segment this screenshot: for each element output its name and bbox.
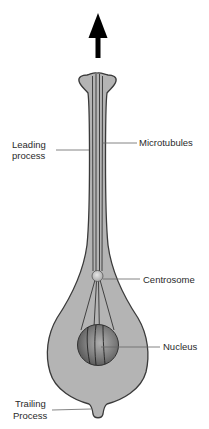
label-leading-process-line1: Leading [12, 139, 46, 150]
nucleus [78, 325, 119, 366]
label-leading-process-line2: process [12, 150, 45, 161]
label-centrosome: Centrosome [143, 274, 195, 285]
label-trailing-process-line1: Trailing [15, 398, 46, 409]
label-microtubules: Microtubules [139, 137, 193, 148]
up-arrow-icon [89, 13, 108, 58]
centrosome [92, 271, 103, 282]
label-trailing-process-line2: Process [13, 410, 47, 421]
label-nucleus: Nucleus [163, 341, 197, 352]
neuron-diagram [0, 0, 209, 429]
